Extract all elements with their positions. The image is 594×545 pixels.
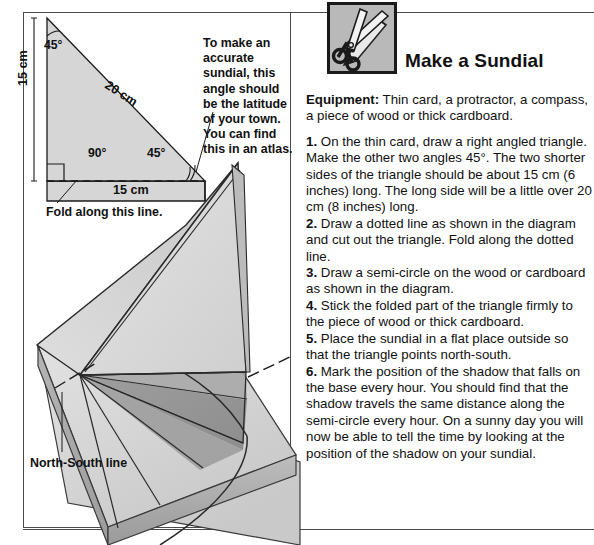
step-4-text: Stick the folded part of the triangle fi… xyxy=(306,298,573,329)
dimension-base-15cm: 15 cm xyxy=(113,183,149,197)
angle-right-90: 90° xyxy=(88,146,106,160)
step-3-number: 3. xyxy=(306,265,317,280)
step-5: 5. Place the sundial in a flat place out… xyxy=(306,331,594,364)
equipment-line: Equipment: Thin card, a protractor, a co… xyxy=(306,92,594,125)
step-6: 6. Mark the position of the shadow that … xyxy=(306,364,594,462)
dimension-vertical-15cm: 15 cm xyxy=(16,50,30,86)
step-6-text: Mark the position of the shadow that fal… xyxy=(306,364,583,461)
equipment-label: Equipment: xyxy=(306,92,379,107)
step-2-text: Draw a dotted line as shown in the diagr… xyxy=(306,216,576,264)
step-6-number: 6. xyxy=(306,364,317,379)
step-2: 2. Draw a dotted line as shown in the di… xyxy=(306,216,594,265)
step-4: 4. Stick the folded part of the triangle… xyxy=(306,298,594,331)
angle-bottom-right-45: 45° xyxy=(147,146,165,160)
step-1-text: On the thin card, draw a right angled tr… xyxy=(306,134,592,215)
step-3-text: Draw a semi-circle on the wood or cardbo… xyxy=(306,265,585,296)
scissors-icon xyxy=(327,2,397,74)
page-title: Make a Sundial xyxy=(405,50,544,72)
angle-top-left-45: 45° xyxy=(44,38,62,52)
latitude-note: To make an accurate sundial, this angle … xyxy=(203,36,293,158)
paragraph-gap xyxy=(306,125,594,134)
step-1-number: 1. xyxy=(306,134,317,149)
sundial-activity-page: 15 cm 20 cm 15 cm 45° 90° 45° To make an… xyxy=(0,0,594,545)
step-2-number: 2. xyxy=(306,216,317,231)
fold-line-label: Fold along this line. xyxy=(46,205,162,220)
step-1: 1. On the thin card, draw a right angled… xyxy=(306,134,594,216)
north-south-line-label: North-South line xyxy=(30,456,127,471)
step-4-number: 4. xyxy=(306,298,317,313)
instructions-body: Equipment: Thin card, a protractor, a co… xyxy=(306,92,594,462)
step-5-number: 5. xyxy=(306,331,317,346)
step-5-text: Place the sundial in a flat place outsid… xyxy=(306,331,568,362)
bottom-divider xyxy=(23,529,594,530)
step-3: 3. Draw a semi-circle on the wood or car… xyxy=(306,265,594,298)
